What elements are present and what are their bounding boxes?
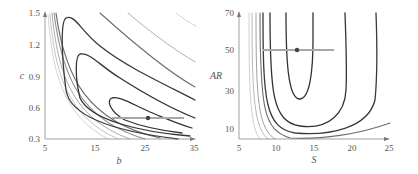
x-tick: 5	[237, 143, 242, 153]
x-axis-label: S	[312, 154, 317, 165]
x-tick: 25	[141, 143, 151, 153]
y-tick: 30	[225, 86, 235, 96]
x-axis-label: b	[117, 155, 122, 166]
figure: 0.3 0.6 0.9 1.2 1.5 5 15 25 35 b c	[0, 0, 418, 174]
contour-line	[286, 13, 313, 99]
y-axis-arrow-icon	[43, 11, 47, 17]
y-tick: 0.6	[29, 103, 41, 113]
optimum-marker	[295, 48, 299, 52]
contour-line	[54, 13, 145, 139]
y-tick: 50	[225, 45, 235, 55]
right-contours	[249, 13, 390, 139]
contour-line	[260, 13, 390, 138]
contour-line	[263, 13, 377, 134]
x-axis-arrow-icon	[384, 137, 390, 141]
x-tick: 25	[385, 143, 395, 153]
x-tick: 15	[91, 143, 101, 153]
y-tick: 0.3	[29, 134, 41, 144]
y-axis-label: c	[20, 70, 25, 81]
y-tick: 1.5	[29, 8, 41, 18]
y-axis-arrow-icon	[237, 11, 241, 17]
x-tick: 15	[310, 143, 320, 153]
y-tick: 70	[225, 8, 235, 18]
left-chart: 0.3 0.6 0.9 1.2 1.5 5 15 25 35 b c	[20, 8, 199, 166]
optimum-marker	[146, 116, 150, 120]
contour-line	[50, 14, 118, 139]
contour-line	[176, 13, 196, 26]
x-tick: 20	[348, 143, 358, 153]
left-contours	[48, 13, 196, 139]
x-tick: 35	[190, 143, 200, 153]
x-tick: 10	[272, 143, 282, 153]
x-axis-arrow-icon	[190, 137, 196, 141]
contour-line	[109, 98, 192, 133]
y-tick: 1.2	[29, 40, 40, 50]
right-chart: 10 30 50 70 5 10 15 20 25 S AR	[209, 8, 394, 165]
y-tick: 0.9	[29, 72, 41, 82]
y-tick: 10	[225, 124, 235, 134]
contour-line	[270, 13, 346, 127]
y-axis-label: AR	[209, 70, 222, 81]
contour-line	[128, 13, 195, 62]
x-tick: 5	[43, 143, 48, 153]
